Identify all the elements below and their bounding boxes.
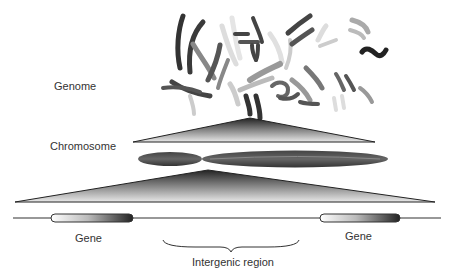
- chromosome-cluster: [163, 16, 386, 118]
- gene-left-label: Gene: [75, 232, 102, 244]
- gene-right-label: Gene: [345, 230, 372, 242]
- genome-label: Genome: [54, 80, 96, 92]
- gene-left-shape: [51, 214, 133, 222]
- chromosome-to-dna-triangle: [15, 170, 435, 202]
- gene-right-shape: [320, 214, 400, 222]
- genome-diagram: [0, 0, 452, 278]
- intergenic-brace: [163, 240, 299, 252]
- intergenic-region-label: Intergenic region: [192, 256, 274, 268]
- genome-to-chromosome-triangle: [133, 118, 375, 142]
- chromosome-label: Chromosome: [50, 140, 116, 152]
- chromosome-shape: [138, 151, 388, 168]
